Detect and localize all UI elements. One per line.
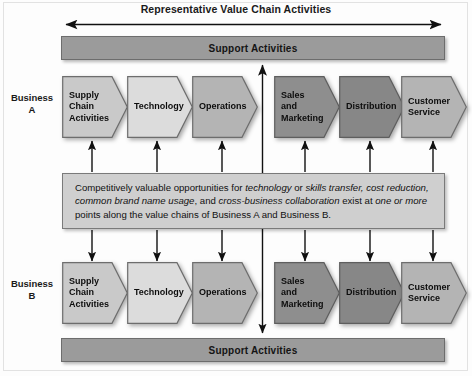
support-activities-bar-top: Support Activities [61,36,445,60]
business-b-label: Business B [4,278,60,302]
chevron-label: Supply Chain Activities [69,90,109,125]
chevron-label: Distribution [346,287,397,299]
center-text-seg-2: or [292,182,306,193]
chevron-label: Sales and Marketing [281,276,324,311]
center-text-seg-1: Competitively valuable opportunities for [75,182,245,193]
center-text-seg-5: points along the value chains of Busines… [75,209,331,220]
chevron-label: Customer Service [408,282,450,305]
chevron-b-technology[interactable]: Technology [127,262,193,324]
support-activities-label-top: Support Activities [209,43,298,54]
value-chain-diagram: Representative Value Chain Activities [0,0,472,376]
chevron-label: Operations [199,101,247,113]
center-text-seg-4: exist at [340,195,376,206]
chevron-label: Technology [134,287,184,299]
center-text-em-one-or-more: one or more [375,195,427,206]
support-activities-label-bottom: Support Activities [209,345,298,356]
business-a-label: Business A [4,92,60,116]
shared-opportunities-textbox: Competitively valuable opportunities for… [62,173,445,229]
page-title: Representative Value Chain Activities [0,3,472,15]
chevron-b-sales-and-marketing[interactable]: Sales and Marketing [274,262,340,324]
chevron-b-operations[interactable]: Operations [192,262,258,324]
support-activities-bar-bottom: Support Activities [61,338,445,362]
chevron-label: Sales and Marketing [281,90,324,125]
center-text-seg-3: , and [194,195,218,206]
center-text-em-cross-business: cross-business collaboration [218,195,339,206]
chevron-label: Customer Service [408,96,450,119]
chevron-b-distribution[interactable]: Distribution [339,262,405,324]
chevron-a-supply-chain-activities[interactable]: Supply Chain Activities [62,76,128,138]
chevron-a-sales-and-marketing[interactable]: Sales and Marketing [274,76,340,138]
chevron-a-operations[interactable]: Operations [192,76,258,138]
chevron-a-distribution[interactable]: Distribution [339,76,405,138]
chevron-a-customer-service[interactable]: Customer Service [401,76,467,138]
chevron-a-technology[interactable]: Technology [127,76,193,138]
chevron-b-customer-service[interactable]: Customer Service [401,262,467,324]
chevron-label: Technology [134,101,184,113]
chevron-label: Distribution [346,101,397,113]
chevron-label: Operations [199,287,247,299]
chevron-label: Supply Chain Activities [69,276,109,311]
chevron-b-supply-chain-activities[interactable]: Supply Chain Activities [62,262,128,324]
center-text-em-technology: technology [245,182,291,193]
